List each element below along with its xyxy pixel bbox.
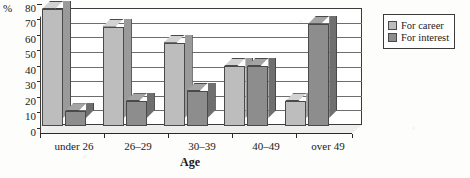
x-tick-3 bbox=[232, 134, 233, 138]
y-tick-20: 20 bbox=[14, 96, 36, 106]
bar-front-face bbox=[103, 27, 124, 126]
y-axis-unit-label: % bbox=[3, 2, 12, 14]
bar-front-face bbox=[164, 43, 185, 126]
x-tick-0 bbox=[40, 134, 41, 138]
bar-front-face bbox=[285, 101, 306, 126]
bar-side-face bbox=[329, 16, 337, 118]
x-tick-1 bbox=[104, 134, 105, 138]
x-category-label-4: over 49 bbox=[296, 140, 360, 152]
chart-title-clipped bbox=[95, 0, 345, 2]
y-tick-80: 80 bbox=[14, 3, 36, 13]
bar-interest-0 bbox=[65, 111, 86, 126]
bar-front-face bbox=[224, 66, 245, 126]
bar-career-2 bbox=[164, 43, 185, 126]
x-category-label-2: 30–39 bbox=[170, 140, 234, 152]
legend-item-career[interactable]: For career bbox=[388, 20, 449, 31]
x-tick-4 bbox=[296, 134, 297, 138]
x-category-label-1: 26–29 bbox=[106, 140, 170, 152]
bar-side-face bbox=[63, 1, 71, 118]
y-tick-10: 10 bbox=[14, 111, 36, 121]
y-tick-70: 70 bbox=[14, 18, 36, 28]
bar-interest-4 bbox=[308, 24, 329, 126]
x-axis-title: Age bbox=[0, 155, 380, 170]
bar-front-face bbox=[247, 66, 268, 126]
chart-legend: For career For interest bbox=[383, 14, 455, 49]
bar-career-0 bbox=[42, 9, 63, 126]
plot-area bbox=[40, 8, 362, 133]
legend-label-career: For career bbox=[401, 20, 444, 31]
bar-front-face bbox=[42, 9, 63, 126]
bar-front-face bbox=[126, 101, 147, 126]
x-category-label-3: 40–49 bbox=[234, 140, 298, 152]
y-tick-50: 50 bbox=[14, 49, 36, 59]
x-tick-2 bbox=[168, 134, 169, 138]
x-category-label-0: under 26 bbox=[42, 140, 106, 152]
bar-interest-2 bbox=[187, 91, 208, 126]
y-tick-0: 0 bbox=[14, 127, 36, 137]
bar-side-face bbox=[268, 58, 276, 118]
bar-career-4 bbox=[285, 101, 306, 126]
bar-front-face bbox=[308, 24, 329, 126]
y-tick-30: 30 bbox=[14, 80, 36, 90]
bar-career-3 bbox=[224, 66, 245, 126]
x-tick-5 bbox=[352, 134, 353, 138]
bar-interest-3 bbox=[247, 66, 268, 126]
legend-swatch-interest bbox=[388, 33, 397, 42]
x-axis-line bbox=[40, 133, 352, 134]
legend-swatch-career bbox=[388, 21, 397, 30]
bar-front-face bbox=[65, 111, 86, 126]
legend-item-interest[interactable]: For interest bbox=[388, 32, 449, 43]
y-tick-40: 40 bbox=[14, 65, 36, 75]
bar-chart: % 80 70 60 50 40 30 20 10 0 under 26 26–… bbox=[0, 0, 470, 178]
plot-side-edge bbox=[40, 17, 41, 134]
bar-career-1 bbox=[103, 27, 124, 126]
bar-front-face bbox=[187, 91, 208, 126]
y-tick-60: 60 bbox=[14, 34, 36, 44]
legend-label-interest: For interest bbox=[401, 32, 449, 43]
bar-interest-1 bbox=[126, 101, 147, 126]
